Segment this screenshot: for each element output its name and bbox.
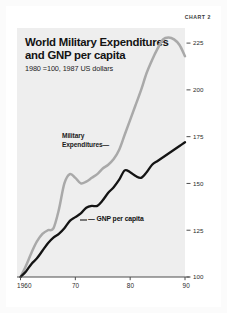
series-line-gnp-per-capita — [21, 142, 186, 277]
series-label-gnp-text: GNP per capita — [97, 215, 144, 222]
y-tick-label-150: 150 — [193, 180, 204, 187]
axis-layer — [17, 43, 191, 280]
series-line-military-expenditures — [21, 37, 186, 277]
series-label-military-leader: — — [103, 141, 110, 148]
series-label-military-line2: Expenditures — [62, 141, 103, 148]
series-label-military: Military Expenditures— — [62, 132, 109, 149]
y-tick-label-100: 100 — [193, 273, 204, 280]
x-tick-label-90: 90 — [183, 282, 190, 289]
y-tick-label-225: 225 — [193, 39, 204, 46]
x-tick-label-80: 80 — [127, 282, 134, 289]
series-label-gnp-leader: — — [88, 215, 95, 222]
series-label-military-line1: Military — [62, 132, 84, 139]
series-layer — [21, 37, 186, 277]
y-tick-label-175: 175 — [193, 133, 204, 140]
y-tick-label-125: 125 — [193, 227, 204, 234]
chart-plot-svg — [0, 0, 227, 313]
chart-page: CHART 2 World Military Expenditures and … — [0, 0, 227, 313]
x-tick-label-70: 70 — [72, 282, 79, 289]
series-label-gnp: — GNP per capita — [88, 215, 144, 222]
y-tick-label-200: 200 — [193, 86, 204, 93]
x-tick-label-1960: 1960 — [17, 282, 32, 289]
